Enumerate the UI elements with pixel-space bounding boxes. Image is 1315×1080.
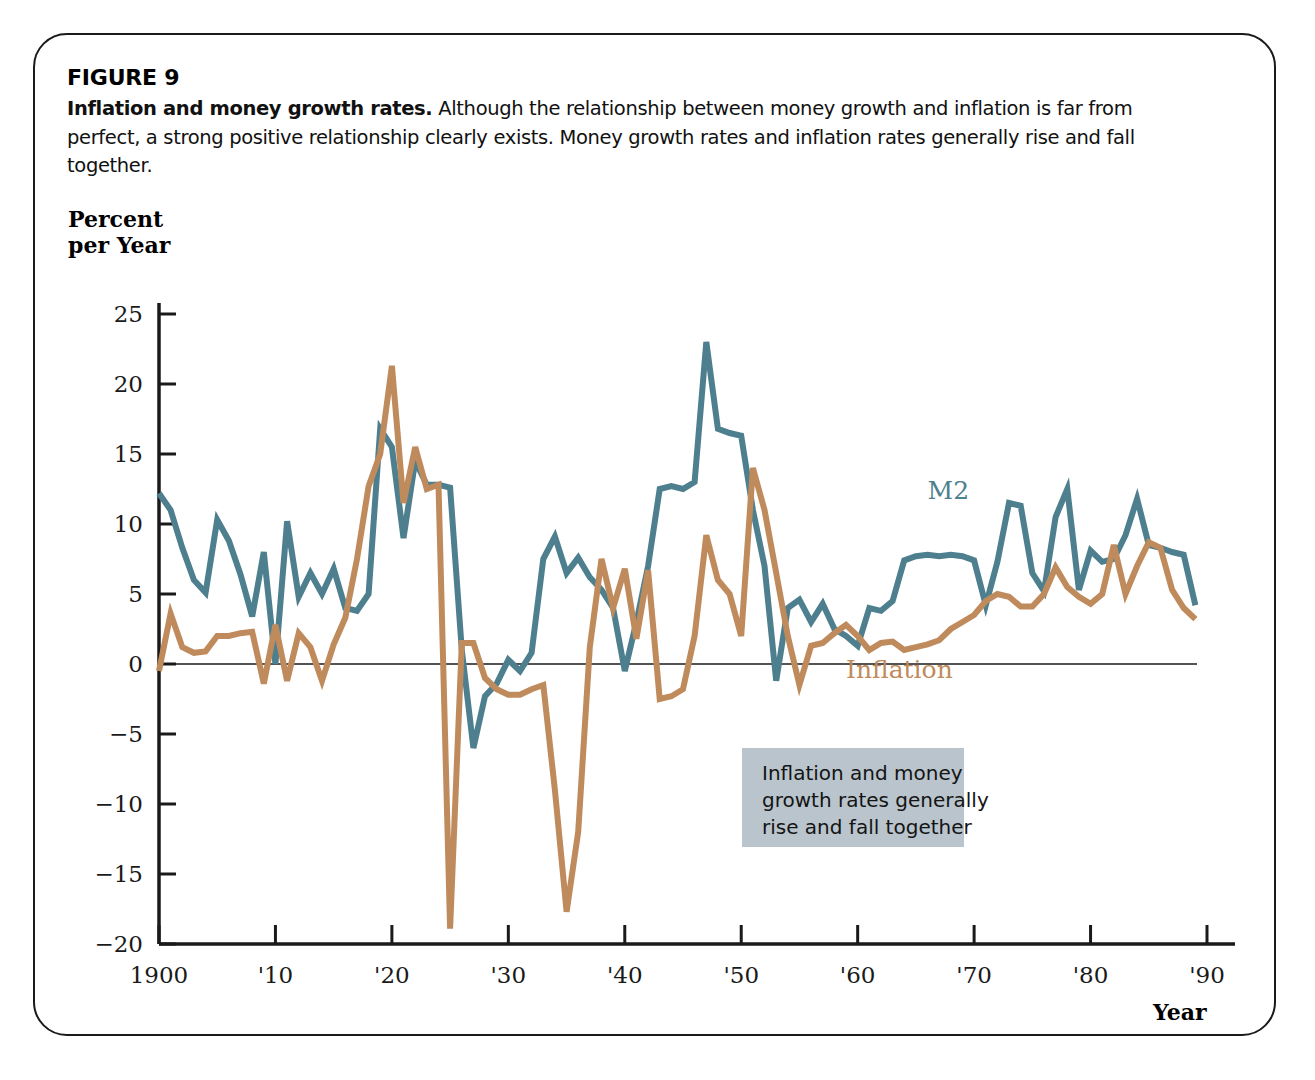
annotation-line-3: rise and fall together — [762, 815, 973, 839]
y-tick-label: −15 — [94, 861, 143, 887]
x-axis-title: Year — [1152, 999, 1207, 1025]
series-line-inflation — [159, 366, 1195, 929]
y-tick-label: −20 — [94, 931, 143, 957]
x-tick-label: '80 — [1073, 962, 1109, 988]
x-tick-label: '50 — [723, 962, 759, 988]
series-label-inflation: Inflation — [846, 655, 953, 684]
x-tick-label: '60 — [840, 962, 876, 988]
x-tick-label: '70 — [956, 962, 992, 988]
x-tick-label: 1900 — [130, 962, 189, 988]
y-axis-title: Percent per Year — [68, 206, 171, 258]
y-tick-label: 5 — [128, 581, 143, 607]
series-labels-group: M2Inflation — [846, 476, 969, 684]
y-tick-label: 25 — [114, 301, 143, 327]
y-axis-title-line1: Percent — [68, 206, 164, 232]
y-tick-label: 20 — [114, 371, 143, 397]
x-tick-label: '30 — [491, 962, 527, 988]
chart-plot-area: Percent per Year 2520151050−5−10−15−20 1… — [35, 35, 1278, 1038]
x-tick-label: '10 — [258, 962, 294, 988]
y-tick-label: −5 — [109, 721, 143, 747]
annotation-line-1: Inflation and money — [762, 761, 963, 785]
annotation-line-2: growth rates generally — [762, 788, 989, 812]
annotation-box: Inflation and money growth rates general… — [742, 748, 989, 847]
x-tick-label: '20 — [374, 962, 410, 988]
y-tick-label: −10 — [94, 791, 143, 817]
y-axis-ticks: 2520151050−5−10−15−20 — [94, 301, 176, 957]
data-series-group — [159, 342, 1195, 929]
series-line-m2 — [159, 342, 1195, 748]
figure-frame: FIGURE 9 Inflation and money growth rate… — [33, 33, 1276, 1036]
y-tick-label: 15 — [114, 441, 143, 467]
x-axis-ticks: 1900'10'20'30'40'50'60'70'80'90 — [130, 925, 1225, 988]
y-axis-title-line2: per Year — [68, 232, 171, 258]
y-tick-label: 0 — [128, 651, 143, 677]
x-tick-label: '40 — [607, 962, 643, 988]
x-tick-label: '90 — [1189, 962, 1225, 988]
y-tick-label: 10 — [114, 511, 143, 537]
line-chart: Percent per Year 2520151050−5−10−15−20 1… — [35, 35, 1278, 1038]
series-label-m2: M2 — [928, 476, 970, 505]
